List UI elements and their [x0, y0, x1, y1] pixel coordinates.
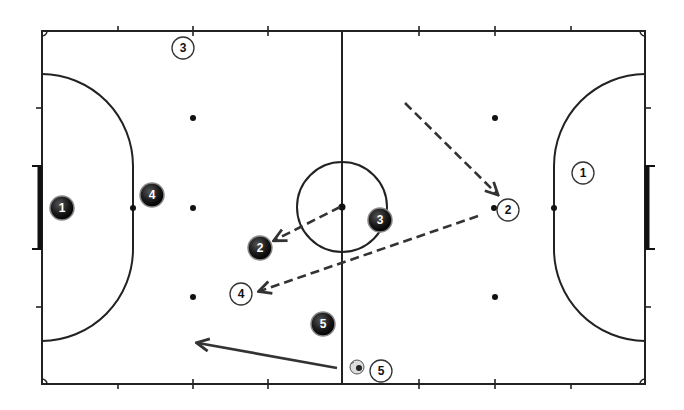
court-svg: 1 4 2 3 5 3 1 2 4 5 [0, 0, 684, 410]
svg-text:4: 4 [238, 287, 245, 301]
ball-icon[interactable] [350, 360, 364, 374]
dark-player-4[interactable]: 4 [140, 183, 164, 207]
light-player-1[interactable]: 1 [572, 162, 594, 184]
court-spots [130, 115, 557, 300]
light-player-2[interactable]: 2 [497, 199, 519, 221]
light-player-3[interactable]: 3 [172, 37, 194, 59]
svg-text:2: 2 [505, 203, 512, 217]
svg-text:5: 5 [378, 364, 385, 378]
dark-player-1[interactable]: 1 [50, 196, 74, 220]
svg-text:1: 1 [59, 201, 66, 215]
dark-player-2[interactable]: 2 [248, 236, 272, 260]
dark-player-3[interactable]: 3 [368, 208, 392, 232]
svg-text:3: 3 [377, 213, 384, 227]
svg-text:5: 5 [320, 317, 327, 331]
light-player-5[interactable]: 5 [370, 360, 392, 382]
svg-text:1: 1 [580, 166, 587, 180]
svg-text:2: 2 [257, 241, 264, 255]
dark-player-5[interactable]: 5 [311, 312, 335, 336]
pass-arrow-to-light-4 [260, 216, 478, 291]
right-penalty-area [554, 74, 645, 341]
svg-text:4: 4 [149, 188, 156, 202]
run-arrow-to-light-2 [405, 103, 497, 194]
movement-arrows [198, 103, 497, 368]
futsal-diagram: 1 4 2 3 5 3 1 2 4 5 [0, 0, 684, 410]
light-player-4[interactable]: 4 [230, 283, 252, 305]
run-arrow-solid-left [198, 343, 337, 368]
svg-text:3: 3 [180, 41, 187, 55]
